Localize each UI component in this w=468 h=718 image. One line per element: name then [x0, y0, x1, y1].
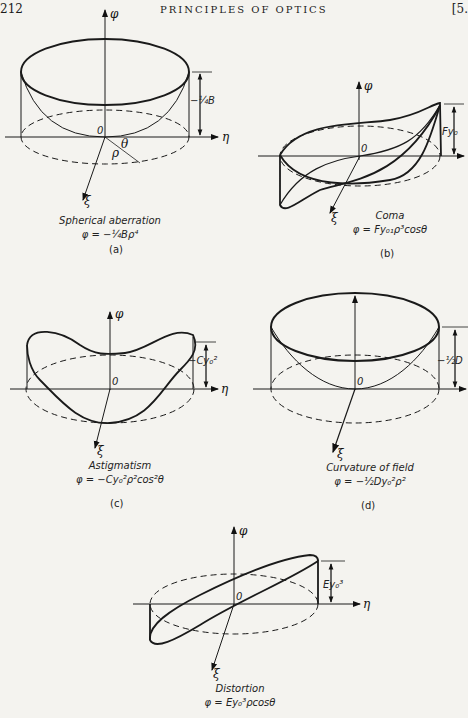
figure-e-distortion: [133, 527, 360, 670]
aberration-figures: φ η ξ 0 ρ θ −¼B φ 0 ξ Fy₀ φ η 0 ξ −Cy₀² …: [0, 0, 468, 718]
caption-formula-d: φ = −½Dy₀²ρ²: [300, 476, 440, 487]
figure-label-b: (b): [380, 248, 394, 259]
caption-title-c: Astigmatism: [50, 460, 190, 471]
svg-text:η: η: [221, 382, 229, 396]
svg-text:ξ: ξ: [213, 667, 221, 681]
height-label-c: −Cy₀²: [188, 355, 217, 366]
height-label-b: Fy₀: [442, 126, 458, 137]
caption-title-a: Spherical aberration: [40, 215, 180, 226]
svg-text:φ: φ: [115, 307, 124, 321]
caption-formula-c: φ = −Cy₀²ρ²cos²θ: [50, 474, 190, 485]
xi-axis-label-a: ξ: [84, 194, 92, 208]
figure-d-curvature-of-field: [253, 293, 468, 452]
svg-text:0: 0: [361, 143, 367, 154]
figure-label-a: (a): [109, 244, 123, 255]
figure-label-c: (c): [110, 498, 123, 509]
svg-text:φ: φ: [364, 79, 373, 93]
height-label-d: −½D: [437, 355, 463, 366]
svg-text:0: 0: [112, 376, 118, 387]
figure-label-d: (d): [361, 500, 375, 511]
height-label-a: −¼B: [190, 95, 215, 106]
caption-title-e: Distortion: [170, 683, 310, 694]
svg-text:ξ: ξ: [97, 444, 105, 458]
svg-text:0: 0: [97, 125, 103, 136]
caption-formula-e: φ = Ey₀³ρcosθ: [170, 697, 310, 708]
figure-a-spherical-aberration: [5, 10, 218, 200]
svg-text:θ: θ: [121, 137, 129, 151]
svg-text:η: η: [363, 597, 371, 611]
caption-formula-a: φ = −¼Bρ⁴: [40, 229, 180, 240]
caption-title-b: Coma: [330, 210, 450, 221]
height-label-e: Ey₀³: [323, 579, 343, 590]
svg-text:ρ: ρ: [111, 146, 119, 160]
svg-text:φ: φ: [239, 524, 248, 538]
svg-text:ξ: ξ: [337, 447, 345, 461]
phi-axis-label-a: φ: [110, 7, 119, 21]
eta-axis-label-a: η: [222, 130, 230, 144]
svg-text:0: 0: [357, 376, 363, 387]
caption-title-d: Curvature of field: [300, 462, 440, 473]
svg-text:0: 0: [236, 591, 242, 602]
caption-formula-b: φ = Fy₀₁ρ³cosθ: [320, 224, 460, 235]
